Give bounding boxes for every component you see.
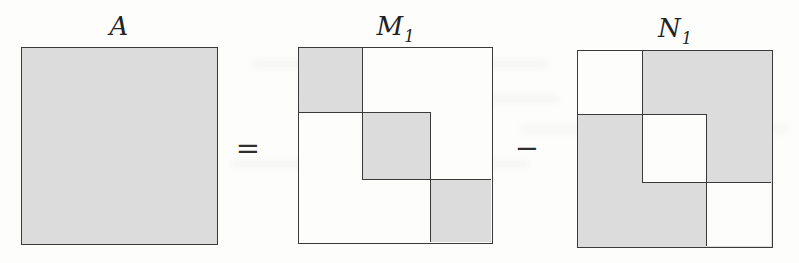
matrix-a-square [21,47,218,245]
matrix-m1-square [298,47,493,244]
minus-sign: − [507,130,547,166]
n1-diagonal-block-2 [642,114,706,182]
m1-diagonal-block-3 [430,179,491,242]
matrix-a-label-base: A [110,11,129,41]
matrix-n1-square [577,50,773,248]
m1-divider-horizontal-2 [362,179,492,181]
matrix-splitting-figure: A M1 N1 = − [0,0,799,263]
n1-divider-vertical-1 [642,51,644,182]
n1-diagonal-block-1 [578,51,642,114]
m1-divider-vertical-2 [430,112,432,243]
n1-diagonal-block-3 [706,182,771,246]
matrix-a-label: A [21,12,218,40]
m1-diagonal-block-1 [299,48,362,112]
matrix-m1-label-base: M [377,11,404,41]
m1-divider-horizontal-1 [299,112,430,114]
n1-divider-vertical-2 [706,114,708,247]
matrix-m1-label-sub: 1 [404,27,414,46]
m1-diagonal-block-2 [362,112,430,179]
m1-divider-vertical-1 [362,48,364,179]
n1-divider-horizontal-2 [642,182,772,184]
equals-sign: = [228,130,268,166]
matrix-n1-label: N1 [577,14,773,42]
matrix-m1-label: M1 [298,12,493,40]
matrix-n1-label-sub: 1 [682,29,692,48]
matrix-n1-label-base: N [658,13,681,43]
n1-divider-horizontal-1 [578,114,706,116]
